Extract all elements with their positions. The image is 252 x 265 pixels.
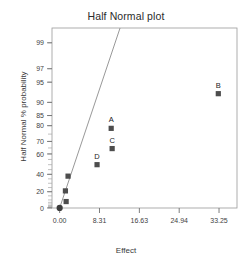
- data-point-label: A: [109, 115, 114, 124]
- plot-area: 020406070808590959799 0.008.3116.6324.94…: [0, 0, 252, 265]
- y-tick-label: 95: [36, 79, 44, 86]
- x-tick-label: 0.00: [53, 217, 67, 224]
- y-tick-label: 97: [36, 65, 44, 72]
- data-point-marker: [110, 146, 115, 151]
- y-tick-label: 90: [36, 99, 44, 106]
- data-point-label: B: [216, 81, 221, 90]
- y-tick-label: 80: [36, 122, 44, 129]
- y-axis-ticks: 020406070808590959799: [36, 39, 52, 211]
- data-point-marker: [109, 126, 114, 131]
- data-point-marker: [63, 188, 68, 193]
- y-tick-label: 0: [40, 205, 44, 212]
- data-point-marker: [57, 205, 63, 211]
- y-tick-label: 20: [36, 188, 44, 195]
- data-point-marker: [216, 91, 221, 96]
- data-point-marker: [64, 199, 69, 204]
- y-tick-label: 70: [36, 138, 44, 145]
- data-point-marker: [94, 162, 99, 167]
- plot-frame: [52, 28, 237, 208]
- half-normal-plot: Half Normal plot Half Normal % probabili…: [0, 0, 252, 265]
- data-point-label: C: [109, 136, 115, 145]
- y-tick-label: 40: [36, 171, 44, 178]
- plot-border: [52, 28, 237, 208]
- y-tick-label: 85: [36, 112, 44, 119]
- x-tick-label: 33.25: [210, 217, 228, 224]
- x-axis-ticks: 0.008.3116.6324.9433.25: [53, 208, 228, 224]
- x-tick-label: 24.94: [170, 217, 188, 224]
- x-tick-label: 16.63: [131, 217, 149, 224]
- data-point-label: D: [94, 152, 100, 161]
- y-tick-label: 99: [36, 39, 44, 46]
- data-point-marker: [65, 174, 70, 179]
- y-tick-label: 60: [36, 151, 44, 158]
- x-tick-label: 8.31: [93, 217, 107, 224]
- data-points: DCAB: [57, 81, 221, 211]
